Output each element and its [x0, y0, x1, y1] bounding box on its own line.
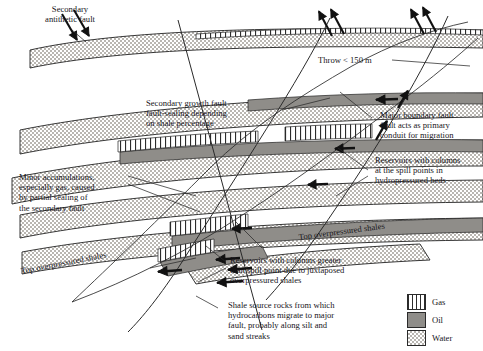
legend-swatch-water — [407, 330, 426, 346]
legend: Gas Oil Water — [407, 293, 479, 347]
label-reservoirs-greater-than-spill: Reservoirs with columns greater than spi… — [230, 255, 344, 286]
legend-label-gas: Gas — [432, 297, 445, 307]
label-secondary-antithetic-fault: Secondary antithetic fault — [24, 4, 116, 24]
legend-item-oil: Oil — [407, 311, 479, 328]
label-shale-source-rocks: Shale source rocks from which hydrocarbo… — [228, 300, 334, 341]
figure-root: Secondary antithetic fault Throw < 150 m… — [0, 0, 483, 351]
label-reservoirs-spill-points: Reservoirs with columns at the spill poi… — [375, 155, 460, 186]
label-secondary-growth-fault: Secondary growth fault fault-sealing dep… — [146, 98, 227, 129]
label-throw: Throw < 150 m — [318, 55, 372, 65]
legend-swatch-oil — [407, 312, 426, 328]
legend-item-gas: Gas — [407, 293, 479, 310]
legend-swatch-gas — [407, 294, 426, 310]
label-minor-accumulations: Minor accumulations, especially gas, cau… — [19, 172, 95, 213]
legend-label-water: Water — [432, 333, 452, 343]
legend-item-water: Water — [407, 329, 479, 346]
label-major-boundary-fault: Major boundary fault fault acts as prima… — [380, 110, 454, 141]
legend-label-oil: Oil — [432, 315, 443, 325]
